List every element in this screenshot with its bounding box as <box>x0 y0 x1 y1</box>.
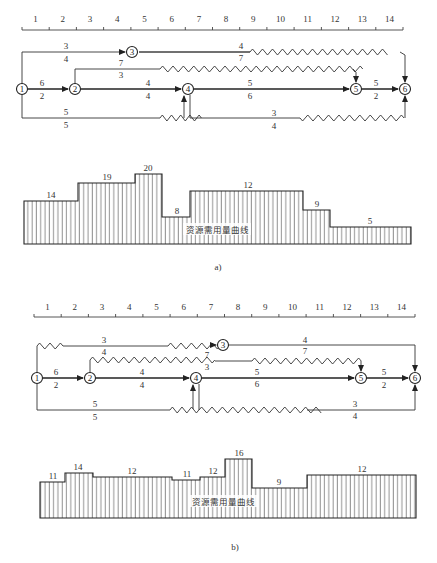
tick-label: 4 <box>127 302 132 312</box>
activity-4-6-top: 3 <box>353 399 358 409</box>
tick-label: 9 <box>251 14 256 24</box>
svg-text:2: 2 <box>88 373 93 383</box>
node-5[interactable]: 5 <box>356 373 367 384</box>
histogram-value: 12 <box>209 466 218 476</box>
node-2[interactable]: 2 <box>70 84 81 95</box>
node-1[interactable]: 1 <box>32 373 43 384</box>
histogram-value: 9 <box>315 199 320 209</box>
tick-label: 7 <box>209 302 214 312</box>
node-6[interactable]: 6 <box>410 373 421 384</box>
activity-2-5-bottom: 3 <box>205 362 210 372</box>
tick-label: 12 <box>343 302 352 312</box>
tick-label: 10 <box>288 302 298 312</box>
svg-text:1: 1 <box>20 84 25 94</box>
tick-label: 8 <box>236 302 241 312</box>
svg-text:3: 3 <box>221 340 226 350</box>
node-5[interactable]: 5 <box>351 84 362 95</box>
histogram-label: 资源需用量曲线 <box>192 497 255 507</box>
activity-2-4-bottom: 4 <box>146 91 151 101</box>
activity-3-6-top: 4 <box>303 335 308 345</box>
activity-2-4-top: 4 <box>146 78 151 88</box>
histogram-value: 16 <box>235 448 245 458</box>
activity-1-2-top: 6 <box>40 78 45 88</box>
activity-1-2-bottom: 2 <box>54 380 59 390</box>
activity-1-2-bottom: 2 <box>40 91 45 101</box>
node-3[interactable]: 3 <box>218 340 229 351</box>
tick-label: 14 <box>385 14 395 24</box>
resource-histogram-a: 14 19 20 8 12 9 5 资源需用量曲线 <box>24 163 411 244</box>
activity-4-6-bottom: 4 <box>272 121 277 131</box>
node-2[interactable]: 2 <box>85 373 96 384</box>
activity-2-5-bottom: 3 <box>119 70 124 80</box>
activity-4-6-top: 3 <box>272 108 277 118</box>
activity-2-5-top: 7 <box>119 58 124 68</box>
histogram-value: 14 <box>74 462 84 472</box>
svg-text:6: 6 <box>403 84 408 94</box>
activity-3-6-bottom: 7 <box>303 346 308 356</box>
activity-5-6-bottom: 2 <box>374 91 379 101</box>
activity-3-6-bottom: 7 <box>239 53 244 63</box>
figure-a: 1 2 3 4 5 6 7 8 9 10 11 12 13 14 <box>17 14 412 272</box>
caption-a: a) <box>215 262 222 272</box>
histogram-value: 12 <box>358 464 367 474</box>
tick-label: 2 <box>73 302 78 312</box>
timescale-a-labels: 1 2 3 4 5 6 7 8 9 10 11 12 13 14 <box>33 14 394 24</box>
tick-label: 7 <box>197 14 202 24</box>
tick-label: 3 <box>100 302 105 312</box>
histogram-value: 8 <box>175 206 180 216</box>
svg-text:2: 2 <box>73 84 78 94</box>
activity-1-4-top: 5 <box>64 107 69 117</box>
histogram-value: 9 <box>277 477 282 487</box>
histogram-value: 5 <box>368 216 373 226</box>
activity-5-6-bottom: 2 <box>382 380 387 390</box>
svg-text:4: 4 <box>194 373 199 383</box>
tick-label: 4 <box>115 14 120 24</box>
activity-4-5-top: 5 <box>255 367 260 377</box>
node-6[interactable]: 6 <box>400 84 411 95</box>
tick-label: 11 <box>303 14 312 24</box>
activity-5-6-top: 5 <box>382 367 387 377</box>
tick-label: 6 <box>181 302 186 312</box>
activity-5-6-top: 5 <box>374 78 379 88</box>
histogram-value: 12 <box>128 466 137 476</box>
activity-2-5-top: 7 <box>205 350 210 360</box>
timescale-b <box>34 314 415 317</box>
activity-1-4-bottom: 5 <box>64 120 69 130</box>
histogram-value: 11 <box>49 471 58 481</box>
tick-label: 10 <box>276 14 286 24</box>
histogram-value: 11 <box>183 469 192 479</box>
activity-4-5-bottom: 6 <box>255 379 260 389</box>
tick-label: 6 <box>169 14 174 24</box>
activity-1-4-bottom: 5 <box>93 412 98 422</box>
histogram-value: 19 <box>103 172 113 182</box>
caption-b: b) <box>231 542 239 552</box>
activity-3-6-top: 4 <box>239 41 244 51</box>
node-4[interactable]: 4 <box>183 84 194 95</box>
diagram-canvas: 1 2 3 4 5 6 7 8 9 10 11 12 13 14 <box>0 0 437 563</box>
tick-label: 3 <box>88 14 93 24</box>
tick-label: 5 <box>154 302 159 312</box>
resource-histogram-b: 11 14 12 11 12 16 9 12 资源需用量曲线 <box>40 448 416 518</box>
tick-label: 13 <box>370 302 380 312</box>
tick-label: 11 <box>315 302 324 312</box>
nodes-a: 1 2 3 4 5 6 <box>17 47 411 95</box>
histogram-label: 资源需用量曲线 <box>186 225 249 235</box>
node-1[interactable]: 1 <box>17 84 28 95</box>
histogram-value: 20 <box>144 163 154 173</box>
svg-text:6: 6 <box>413 373 418 383</box>
svg-text:5: 5 <box>359 373 364 383</box>
tick-label: 8 <box>224 14 229 24</box>
tick-label: 1 <box>33 14 38 24</box>
tick-label: 5 <box>142 14 147 24</box>
timescale-a <box>22 27 403 30</box>
tick-label: 1 <box>45 302 50 312</box>
node-3[interactable]: 3 <box>127 47 138 58</box>
node-4[interactable]: 4 <box>191 373 202 384</box>
svg-text:4: 4 <box>186 84 191 94</box>
histogram-value: 12 <box>244 180 253 190</box>
tick-label: 12 <box>331 14 340 24</box>
activity-2-4-bottom: 4 <box>140 380 145 390</box>
tick-label: 14 <box>397 302 407 312</box>
activity-4-5-bottom: 6 <box>248 91 253 101</box>
activity-1-3-bottom: 4 <box>102 347 107 357</box>
